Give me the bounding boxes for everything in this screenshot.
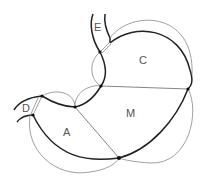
region-label-m: M bbox=[126, 108, 135, 119]
esophagus-right-wall bbox=[105, 14, 110, 43]
esophagus-left-wall bbox=[91, 14, 100, 52]
greater-curvature bbox=[33, 31, 192, 159]
duodenum-lower bbox=[17, 115, 33, 122]
cardia-left-arc bbox=[92, 52, 101, 86]
region-label-a: A bbox=[63, 127, 70, 138]
lesser-inner-arc bbox=[75, 86, 101, 107]
body-outer-arc bbox=[119, 89, 193, 163]
c-m-boundary bbox=[101, 86, 188, 89]
region-label-c: C bbox=[139, 55, 147, 66]
esophagus-double-line bbox=[100, 42, 111, 53]
antrum-outer-arc bbox=[29, 116, 119, 173]
lesser-curvature-lower bbox=[42, 96, 75, 107]
region-label-d: D bbox=[22, 103, 30, 114]
region-label-e: E bbox=[94, 22, 101, 33]
pylorus-double-line bbox=[30, 96, 42, 116]
a-m-boundary bbox=[75, 107, 119, 158]
stomach-diagram bbox=[0, 0, 203, 185]
lesser-curvature-upper bbox=[75, 52, 105, 107]
